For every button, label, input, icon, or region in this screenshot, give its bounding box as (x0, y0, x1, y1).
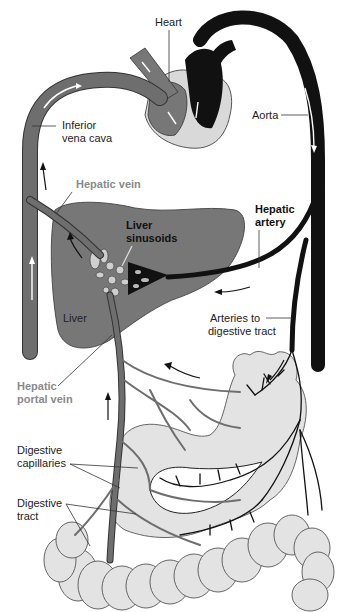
label-inferior-vena-cava-line2: vena cava (62, 132, 113, 144)
label-hepatic-portal-vein-line1: Hepatic (17, 380, 57, 392)
label-digestive-capillaries-line1: Digestive (17, 444, 62, 456)
hepatic-portal-circulation-diagram: Heart Aorta Inferior vena cava Hepatic v… (0, 0, 344, 612)
label-arteries-to-digestive-tract-line1: Arteries to (210, 312, 260, 324)
stomach-small-intestine (110, 351, 306, 537)
label-hepatic-artery-line1: Hepatic (255, 203, 295, 215)
label-hepatic-artery-line2: artery (255, 216, 286, 228)
label-digestive-capillaries-line2: capillaries (17, 457, 66, 469)
label-digestive-tract-line2: tract (17, 510, 38, 522)
label-heart: Heart (155, 16, 182, 28)
label-arteries-to-digestive-tract-line2: digestive tract (208, 325, 276, 337)
label-liver: Liver (63, 312, 87, 324)
label-hepatic-portal-vein-line2: portal vein (17, 393, 73, 405)
digestive-tract (44, 351, 334, 611)
label-liver-sinusoids-line1: Liver (126, 219, 153, 231)
label-digestive-tract-line1: Digestive (17, 497, 62, 509)
label-aorta: Aorta (252, 109, 279, 121)
label-inferior-vena-cava-line1: Inferior (62, 119, 97, 131)
label-liver-sinusoids-line2: sinusoids (126, 232, 177, 244)
label-hepatic-vein: Hepatic vein (76, 178, 141, 190)
